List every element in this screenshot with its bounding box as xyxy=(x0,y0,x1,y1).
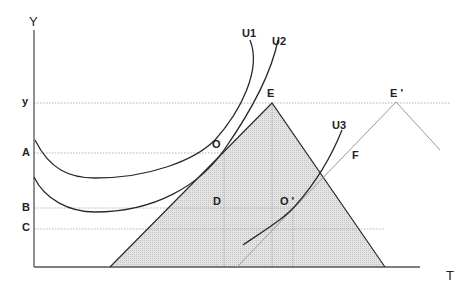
point-label-o-prime: O ' xyxy=(280,196,294,207)
diagram-canvas xyxy=(0,0,473,291)
curve-label-u1: U1 xyxy=(242,28,256,39)
point-label-o: O xyxy=(212,139,221,150)
point-label-f: F xyxy=(352,150,359,161)
x-axis-label: T xyxy=(446,270,454,281)
tick-label-b: B xyxy=(22,202,30,213)
curve-label-u2: U2 xyxy=(272,36,286,47)
point-label-e: E xyxy=(267,88,274,99)
y-axis-label: Y xyxy=(29,16,38,27)
point-label-d: D xyxy=(213,196,221,207)
tick-label-y: y xyxy=(22,96,28,107)
point-label-e-prime: E ' xyxy=(390,88,403,99)
tick-label-a: A xyxy=(22,147,30,158)
tick-label-c: C xyxy=(22,222,30,233)
curve-label-u3: U3 xyxy=(332,120,346,131)
